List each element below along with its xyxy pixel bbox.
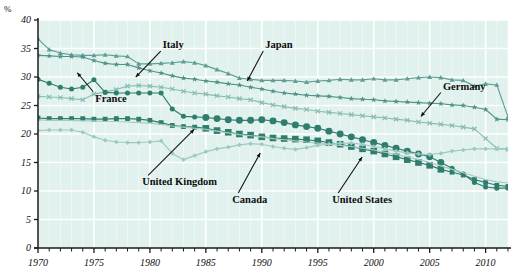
x-tick-label: 1970 bbox=[28, 257, 48, 268]
annotation-label: United Kingdom bbox=[142, 176, 217, 187]
y-axis-unit-label: % bbox=[4, 4, 12, 14]
data-point-marker bbox=[314, 125, 321, 132]
data-point-marker bbox=[236, 117, 243, 124]
data-point-marker bbox=[47, 81, 52, 86]
data-point-marker bbox=[181, 114, 186, 119]
x-tick-label: 2010 bbox=[476, 257, 496, 268]
data-point-marker bbox=[214, 115, 221, 122]
y-tick-label: 30 bbox=[20, 71, 31, 82]
data-point-marker bbox=[170, 106, 175, 111]
y-tick-label: 20 bbox=[21, 128, 31, 139]
data-point-marker bbox=[247, 117, 254, 124]
data-point-marker bbox=[483, 180, 488, 185]
annotation-label: France bbox=[95, 93, 127, 104]
x-tick-label: 1990 bbox=[252, 257, 272, 268]
data-point-marker bbox=[325, 128, 332, 135]
data-point-marker bbox=[281, 135, 288, 142]
y-tick-label: 5 bbox=[26, 214, 31, 225]
data-point-marker bbox=[58, 85, 63, 90]
annotation-label: Italy bbox=[163, 39, 185, 50]
data-point-marker bbox=[472, 177, 477, 182]
annotation-label: Japan bbox=[265, 39, 293, 50]
data-point-marker bbox=[125, 116, 130, 121]
x-tick-label: 1975 bbox=[84, 257, 104, 268]
data-point-marker bbox=[203, 125, 210, 132]
x-tick-label: 1985 bbox=[196, 257, 216, 268]
data-point-marker bbox=[337, 131, 344, 138]
data-point-marker bbox=[270, 117, 277, 124]
data-point-marker bbox=[69, 86, 74, 91]
data-point-marker bbox=[91, 77, 96, 82]
y-tick-label: 25 bbox=[21, 100, 31, 111]
x-tick-label: 1980 bbox=[140, 257, 160, 268]
data-point-marker bbox=[148, 118, 153, 123]
data-point-marker bbox=[159, 90, 164, 95]
data-point-marker bbox=[494, 183, 499, 188]
data-point-marker bbox=[292, 121, 299, 128]
annotation-label: Canada bbox=[232, 194, 268, 205]
line-chart: 0510152025303540197019751980198519901995… bbox=[0, 0, 515, 278]
y-tick-label: 35 bbox=[20, 43, 31, 54]
y-tick-label: 10 bbox=[21, 185, 31, 196]
data-point-marker bbox=[258, 116, 265, 123]
data-point-marker bbox=[506, 184, 511, 189]
x-tick-label: 2000 bbox=[364, 257, 384, 268]
data-point-marker bbox=[303, 123, 310, 130]
data-point-marker bbox=[348, 133, 355, 140]
y-tick-label: 0 bbox=[26, 242, 31, 253]
y-tick-label: 40 bbox=[21, 14, 31, 25]
data-point-marker bbox=[483, 184, 488, 189]
annotation-label: Germany bbox=[443, 81, 486, 92]
data-point-marker bbox=[281, 119, 288, 126]
data-point-marker bbox=[192, 114, 197, 119]
data-point-marker bbox=[147, 90, 152, 95]
data-point-marker bbox=[80, 85, 85, 90]
data-point-marker bbox=[202, 114, 209, 121]
x-tick-label: 1995 bbox=[308, 257, 328, 268]
chart-container: 0510152025303540197019751980198519901995… bbox=[0, 0, 515, 278]
data-point-marker bbox=[136, 90, 141, 95]
data-point-marker bbox=[136, 117, 141, 122]
x-tick-label: 2005 bbox=[420, 257, 440, 268]
data-point-marker bbox=[450, 170, 455, 175]
data-point-marker bbox=[114, 116, 119, 121]
data-point-marker bbox=[225, 116, 232, 123]
annotation-label: United States bbox=[332, 194, 392, 205]
y-tick-label: 15 bbox=[21, 157, 31, 168]
